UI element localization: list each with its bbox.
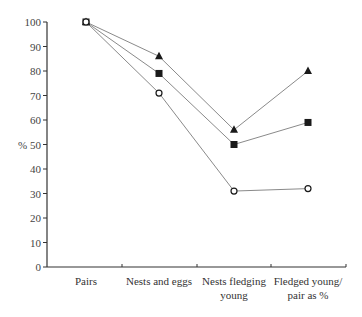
y-tick-label: 50 (30, 139, 42, 151)
triangle-marker-icon (155, 52, 163, 60)
circle-marker-icon (83, 19, 89, 25)
series-line-square (86, 22, 308, 145)
x-category-label: Nests fledging (202, 275, 266, 287)
x-axis: PairsNests and eggsNests fledgingyoungFl… (47, 264, 346, 301)
y-tick-label: 100 (25, 16, 42, 28)
line-chart: 0102030405060708090100% PairsNests and e… (0, 0, 362, 317)
x-category-label: Nests and eggs (126, 275, 192, 287)
y-tick-label: 0 (36, 261, 42, 273)
x-category-label: Pairs (75, 275, 97, 287)
y-tick-label: 20 (30, 212, 42, 224)
circle-marker-icon (231, 188, 237, 194)
series-line-circle (86, 22, 308, 191)
x-category-label: young (220, 289, 248, 301)
circle-marker-icon (156, 90, 162, 96)
y-tick-label: 60 (30, 114, 42, 126)
series-lines (86, 22, 308, 191)
x-category-label: pair as % (288, 289, 329, 301)
y-axis-label: % (18, 139, 27, 151)
y-tick-label: 10 (30, 237, 42, 249)
y-tick-label: 40 (30, 163, 42, 175)
y-axis: 0102030405060708090100% (18, 16, 47, 273)
y-tick-label: 30 (30, 188, 42, 200)
square-marker-icon (231, 141, 238, 148)
series-line-triangle (86, 22, 308, 130)
square-marker-icon (156, 70, 163, 77)
y-tick-label: 70 (30, 90, 42, 102)
x-category-label: Fledged young/ (274, 275, 344, 287)
square-marker-icon (305, 119, 312, 126)
y-tick-label: 80 (30, 65, 42, 77)
triangle-marker-icon (304, 67, 312, 75)
circle-marker-icon (305, 186, 311, 192)
y-tick-label: 90 (30, 41, 42, 53)
